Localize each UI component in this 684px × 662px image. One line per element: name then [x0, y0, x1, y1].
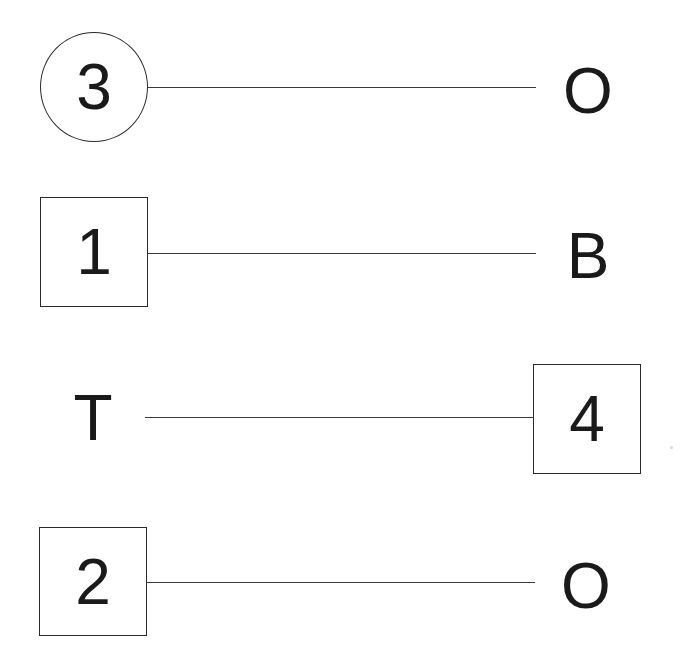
matching-diagram: 3 O 1 B T 4 2 O: [0, 0, 684, 662]
row4-left-label: 2: [75, 550, 111, 614]
row1-connector-line: [148, 87, 536, 88]
row2-right-node: B: [552, 223, 624, 289]
row1-right-label: O: [563, 59, 613, 123]
row4-right-label: O: [561, 554, 611, 618]
row1-left-circle-node: 3: [40, 32, 148, 142]
row3-right-box-node: 4: [533, 364, 641, 474]
row3-left-label: T: [73, 386, 112, 450]
row3-connector-line: [145, 417, 533, 418]
scan-artifact: [670, 446, 673, 449]
row2-left-box-node: 1: [40, 197, 148, 307]
row4-right-node: O: [550, 553, 622, 619]
row2-connector-line: [148, 253, 536, 254]
row1-left-label: 3: [76, 55, 112, 119]
row2-right-label: B: [567, 224, 610, 288]
row4-left-box-node: 2: [39, 527, 147, 636]
row2-left-label: 1: [76, 220, 112, 284]
row3-left-node: T: [57, 385, 129, 451]
row1-right-node: O: [552, 58, 624, 124]
row3-right-label: 4: [569, 387, 605, 451]
row4-connector-line: [147, 582, 535, 583]
